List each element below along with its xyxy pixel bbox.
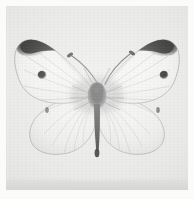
butterfly-specimen-image	[6, 6, 188, 190]
forewing-left-discal-spot	[38, 71, 47, 79]
head	[91, 83, 104, 97]
photograph-plate	[6, 6, 188, 190]
hindwing-right-costal-mark	[156, 107, 160, 113]
forewing-right-discal-spot	[160, 71, 169, 79]
abdomen-tip	[95, 149, 100, 157]
screenshot-root: Grayscale photograph of a white butterfl…	[0, 0, 194, 199]
abdomen	[94, 104, 100, 152]
hindwing-left-costal-mark	[45, 107, 49, 113]
